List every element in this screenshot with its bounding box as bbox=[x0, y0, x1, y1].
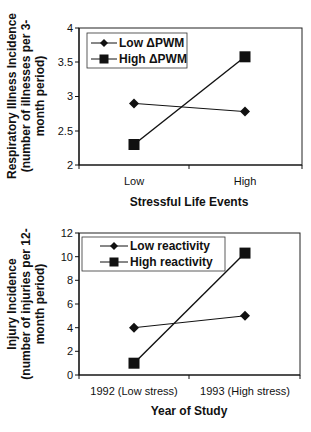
x-ticks: 1992 (Low stress) 1993 (High stress) bbox=[79, 375, 300, 397]
chart-injury-incidence: Injury Incidence (number of injuries per… bbox=[5, 227, 300, 418]
svg-text:4: 4 bbox=[67, 322, 73, 334]
legend: Low ΔPWM High ΔPWM bbox=[87, 33, 187, 68]
svg-text:3: 3 bbox=[67, 90, 73, 102]
x-axis-label: Year of Study bbox=[151, 404, 228, 418]
svg-text:8: 8 bbox=[67, 274, 73, 286]
svg-text:1993 (High stress): 1993 (High stress) bbox=[200, 385, 290, 397]
svg-text:4: 4 bbox=[67, 22, 73, 34]
svg-text:6: 6 bbox=[67, 298, 73, 310]
square-marker bbox=[240, 248, 251, 259]
diamond-marker bbox=[129, 98, 139, 108]
legend-square-icon bbox=[100, 55, 109, 64]
legend-low-reactivity: Low reactivity bbox=[130, 239, 210, 253]
x-axis-label: Stressful Life Events bbox=[130, 195, 249, 209]
y-axis-label: Injury Incidence (number of injuries per… bbox=[5, 228, 47, 379]
svg-text:2.5: 2.5 bbox=[58, 125, 73, 137]
svg-text:12: 12 bbox=[61, 227, 73, 239]
series-low-reactivity bbox=[129, 311, 250, 333]
y-axis-label: Respiratory Illness Incidence (number of… bbox=[5, 13, 47, 179]
x-ticks: Low High bbox=[79, 165, 302, 187]
square-marker bbox=[129, 358, 140, 369]
legend-high-dpwm: High ΔPWM bbox=[119, 52, 187, 66]
legend-square-icon bbox=[110, 258, 119, 267]
svg-text:Respiratory Illness Incidence: Respiratory Illness Incidence bbox=[5, 13, 19, 179]
svg-text:10: 10 bbox=[61, 251, 73, 263]
square-marker bbox=[129, 139, 140, 150]
svg-text:Injury Incidence: Injury Incidence bbox=[5, 258, 19, 350]
y-ticks: 4 3.5 3 2.5 2 bbox=[58, 22, 79, 171]
svg-text:1992 (Low stress): 1992 (Low stress) bbox=[90, 385, 177, 397]
svg-text:2: 2 bbox=[67, 159, 73, 171]
legend: Low reactivity High reactivity bbox=[82, 237, 225, 271]
svg-text:(number of injuries per 12-: (number of injuries per 12- bbox=[19, 228, 33, 379]
y-ticks: 12 10 8 6 4 2 0 bbox=[61, 227, 79, 381]
svg-text:0: 0 bbox=[67, 369, 73, 381]
svg-text:Low: Low bbox=[124, 175, 144, 187]
svg-text:month period): month period) bbox=[33, 56, 47, 137]
figure: Respiratory Illness Incidence (number of… bbox=[0, 0, 311, 432]
legend-high-reactivity: High reactivity bbox=[130, 255, 213, 269]
svg-text:3.5: 3.5 bbox=[58, 56, 73, 68]
legend-low-dpwm: Low ΔPWM bbox=[119, 36, 184, 50]
square-marker bbox=[240, 51, 251, 62]
svg-text:2: 2 bbox=[67, 345, 73, 357]
diamond-marker bbox=[240, 107, 250, 117]
svg-text:High: High bbox=[234, 175, 257, 187]
diamond-marker bbox=[240, 311, 250, 321]
svg-text:(number of illnesses per 3-: (number of illnesses per 3- bbox=[19, 20, 33, 173]
chart-respiratory-illness: Respiratory Illness Incidence (number of… bbox=[5, 13, 302, 209]
diamond-marker bbox=[129, 323, 139, 333]
svg-text:month period): month period) bbox=[33, 264, 47, 345]
